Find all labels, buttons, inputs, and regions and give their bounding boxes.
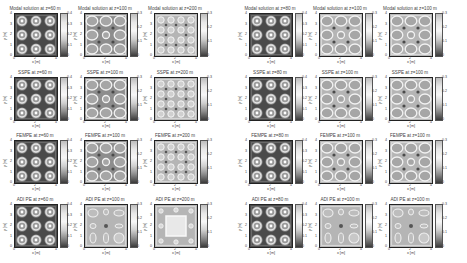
heatmap-panel: ADI PE at z=200 m00.10.20.302401234x [m]… [140, 191, 216, 255]
colorbar [365, 77, 373, 121]
y-tick: 3 [385, 22, 387, 26]
y-tick: 2 [150, 96, 152, 100]
y-tick: 3 [150, 86, 152, 90]
heatmap-panel: FEMPE at z=100 m00.10.20.302401234x [m]y… [70, 127, 146, 191]
colorbar-tick: 0 [302, 117, 304, 121]
colorbar [200, 140, 208, 184]
colorbar [130, 140, 138, 184]
y-axis-label: y [m] [3, 223, 7, 231]
y-tick: 4 [385, 202, 387, 206]
y-tick: 1 [80, 170, 82, 174]
heatmap-plot [154, 204, 198, 248]
y-axis-label: y [m] [73, 32, 77, 40]
x-axis-label: x [m] [84, 251, 128, 255]
y-tick: 3 [150, 213, 152, 217]
y-tick: 0 [385, 53, 387, 57]
heatmap-plot [319, 77, 363, 121]
y-tick: 3 [10, 213, 12, 217]
y-tick: 4 [80, 75, 82, 79]
y-tick: 3 [80, 22, 82, 26]
y-tick: 1 [80, 43, 82, 47]
y-tick: 2 [150, 32, 152, 36]
y-axis-label: y [m] [143, 96, 147, 104]
heatmap-plot [319, 13, 363, 57]
heatmap-panel: FEMPE at z=100 m00.10.20.302401234x [m]y… [375, 127, 451, 191]
y-tick: 1 [10, 107, 12, 111]
y-tick: 3 [80, 149, 82, 153]
colorbar-tick: 0 [207, 53, 209, 57]
y-tick: 1 [150, 43, 152, 47]
y-tick: 1 [315, 170, 317, 174]
y-tick: 3 [315, 86, 317, 90]
y-tick: 3 [10, 149, 12, 153]
heatmap-panel: FEMPE at z=100 m00.10.20.302401234x [m]y… [305, 127, 381, 191]
y-tick: 3 [315, 213, 317, 217]
colorbar [365, 140, 373, 184]
y-tick: 2 [385, 32, 387, 36]
heatmap-plot [14, 13, 58, 57]
colorbar [435, 13, 443, 57]
y-axis-label: y [m] [378, 223, 382, 231]
colorbar-tick: 0.2 [442, 25, 447, 29]
heatmap-panel: Modal solution at z=100 m00.10.20.302401… [375, 0, 451, 64]
colorbar-tick: 0 [67, 244, 69, 248]
heatmap-plot [389, 204, 433, 248]
y-tick: 0 [80, 53, 82, 57]
colorbar [365, 13, 373, 57]
colorbar-tick: 0 [442, 244, 444, 248]
y-tick: 1 [385, 234, 387, 238]
y-tick: 1 [385, 43, 387, 47]
y-tick: 1 [10, 43, 12, 47]
y-tick: 4 [245, 11, 247, 15]
y-tick: 0 [315, 244, 317, 248]
colorbar-tick: 0 [442, 180, 444, 184]
colorbar-tick: 0 [137, 244, 139, 248]
x-axis-label: x [m] [319, 251, 363, 255]
heatmap-panel: Modal solution at z=200 m00.10.20.302401… [140, 0, 216, 64]
y-tick: 0 [80, 180, 82, 184]
colorbar-tick: 0 [442, 53, 444, 57]
y-tick: 1 [315, 43, 317, 47]
colorbar-tick: 0.3 [207, 202, 212, 206]
y-tick: 2 [385, 223, 387, 227]
heatmap-plot [389, 140, 433, 184]
y-tick: 0 [315, 180, 317, 184]
y-axis-label: y [m] [308, 159, 312, 167]
y-axis-label: y [m] [378, 159, 382, 167]
heatmap-panel: FEMPE at z=200 m00.10.20.302401234x [m]y… [140, 127, 216, 191]
colorbar-tick: 0 [372, 180, 374, 184]
y-tick: 2 [150, 223, 152, 227]
y-tick: 4 [150, 75, 152, 79]
heatmap-panel: FEMPE at z=60 m00.10.20.30.402401234x [m… [0, 127, 76, 191]
heatmap-panel: SSPE at z=100 m00.10.20.302401234x [m]y … [70, 64, 146, 128]
y-tick: 0 [80, 117, 82, 121]
y-tick: 3 [150, 149, 152, 153]
colorbar-tick: 0 [137, 53, 139, 57]
heatmap-panel: SSPE at z=80 m00.10.20.30.402401234x [m]… [235, 64, 311, 128]
heatmap-panel: Modal solution at z=100 m00.10.20.302401… [70, 0, 146, 64]
colorbar-tick: 0.1 [207, 103, 212, 107]
colorbar-tick: 0.2 [442, 216, 447, 220]
y-tick: 2 [245, 96, 247, 100]
y-tick: 1 [150, 107, 152, 111]
colorbar-tick: 0 [442, 117, 444, 121]
heatmap-plot [84, 204, 128, 248]
y-tick: 2 [315, 96, 317, 100]
y-axis-label: y [m] [238, 32, 242, 40]
colorbar-tick: 0 [372, 244, 374, 248]
y-tick: 2 [385, 159, 387, 163]
y-tick: 1 [10, 170, 12, 174]
y-tick: 3 [80, 86, 82, 90]
y-tick: 3 [245, 22, 247, 26]
y-axis-label: y [m] [3, 32, 7, 40]
heatmap-panel: SSPE at z=60 m00.10.20.30.402401234x [m]… [0, 64, 76, 128]
y-tick: 2 [315, 159, 317, 163]
y-tick: 4 [10, 75, 12, 79]
y-tick: 0 [245, 117, 247, 121]
y-tick: 0 [10, 117, 12, 121]
y-tick: 2 [80, 32, 82, 36]
colorbar-tick: 0 [207, 244, 209, 248]
y-tick: 4 [10, 138, 12, 142]
heatmap-panel: FEMPE at z=80 m00.10.20.30.402401234x [m… [235, 127, 311, 191]
heatmap-plot [389, 13, 433, 57]
